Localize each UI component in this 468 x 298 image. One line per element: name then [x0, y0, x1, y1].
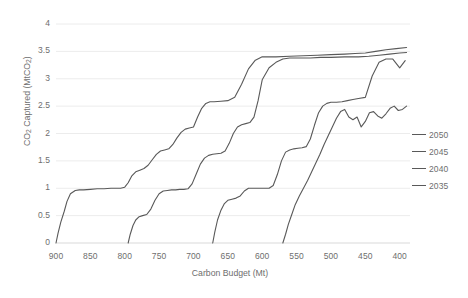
- series-lines: [56, 48, 407, 243]
- y-tick-label: 0.5: [18, 210, 50, 220]
- line-chart: 00.511.522.533.54 9008508007507006506005…: [0, 0, 468, 298]
- legend-item-label: 2040: [429, 164, 448, 174]
- y-axis-title: CO2 Captured (MtCO2): [22, 26, 32, 176]
- legend-item-label: 2050: [429, 130, 448, 140]
- legend-line-swatch: [412, 185, 426, 186]
- legend-item-2040[interactable]: 2040: [412, 160, 468, 177]
- x-axis-title: Carbon Budget (Mt): [56, 268, 404, 278]
- legend-line-swatch: [412, 168, 426, 169]
- legend-item-label: 2035: [429, 181, 448, 191]
- legend-item-label: 2045: [429, 147, 448, 157]
- legend-item-2045[interactable]: 2045: [412, 143, 468, 160]
- series-line-2050: [56, 48, 407, 243]
- y-tick-label: 1: [18, 182, 50, 192]
- series-line-2035: [283, 106, 407, 243]
- legend-line-swatch: [412, 134, 426, 135]
- x-tick-label: 400: [380, 251, 420, 261]
- y-tick-label: 0: [18, 237, 50, 247]
- y-axis-title-text: CO2 Captured (MtCO2): [22, 56, 32, 146]
- legend-item-2050[interactable]: 2050: [412, 126, 468, 143]
- legend: 2050204520402035: [412, 126, 468, 194]
- legend-line-swatch: [412, 151, 426, 152]
- legend-item-2035[interactable]: 2035: [412, 177, 468, 194]
